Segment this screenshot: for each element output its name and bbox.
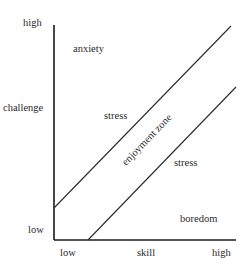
region-anxiety: anxiety xyxy=(73,43,105,54)
x-axis-title: skill xyxy=(137,247,155,258)
region-stress-upper: stress xyxy=(104,110,127,121)
y-axis-high-label: high xyxy=(23,17,42,28)
region-stress-lower: stress xyxy=(174,157,197,168)
x-axis-high-label: high xyxy=(212,247,231,258)
y-axis-title: challenge xyxy=(3,102,44,113)
y-axis-low-label: low xyxy=(28,224,44,235)
x-axis-low-label: low xyxy=(60,247,76,258)
region-boredom: boredom xyxy=(180,213,217,224)
flow-diagram: high challenge low low skill high anxiet… xyxy=(0,0,250,269)
